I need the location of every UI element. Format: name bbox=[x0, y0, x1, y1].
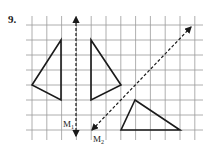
reflection-diagram: M1M2 bbox=[0, 0, 216, 153]
mirror-line-m2 bbox=[92, 27, 191, 130]
mirror-label-m2: M2 bbox=[93, 134, 104, 145]
mirror-label-m1: M1 bbox=[63, 119, 74, 130]
